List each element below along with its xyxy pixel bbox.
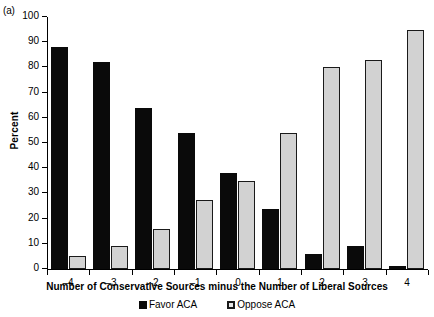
y-axis-tick: 100 [42,16,47,17]
bar-favor-aca [135,108,152,269]
x-axis-tick [343,270,344,275]
x-axis-tick [428,270,429,275]
legend-item-oppose-aca: Oppose ACA [227,300,295,310]
x-axis-tick [47,270,48,275]
filled-square-icon [139,301,147,309]
x-axis-tick [386,270,387,275]
y-axis-tick: 50 [42,142,47,143]
y-axis-line [47,17,48,270]
bar-favor-aca [178,133,195,269]
open-square-icon [227,301,235,309]
y-axis-tick-label: 80 [28,60,39,71]
y-axis-tick: 60 [42,117,47,118]
bar-favor-aca [51,47,68,269]
y-axis-tick: 0 [42,268,47,269]
x-axis-line [47,269,428,270]
bar-oppose-aca [407,30,424,269]
bar-favor-aca [347,246,364,269]
x-axis-tick [89,270,90,275]
y-axis-tick-label: 10 [28,237,39,248]
x-axis-tick [259,270,260,275]
x-axis-tick [216,270,217,275]
figure-panel-a: (a) Percent 0102030405060708090100 –4–3–… [0,0,434,317]
legend-label: Favor ACA [149,300,197,310]
legend-label: Oppose ACA [237,300,295,310]
y-axis-tick: 30 [42,192,47,193]
bar-oppose-aca [196,200,213,269]
bar-oppose-aca [365,60,382,269]
x-axis-tick [132,270,133,275]
y-axis-tick-label: 30 [28,186,39,197]
bar-favor-aca [220,173,237,269]
x-axis-tick [301,270,302,275]
panel-label: (a) [3,6,15,16]
legend-item-favor-aca: Favor ACA [139,300,197,310]
y-axis-tick: 70 [42,92,47,93]
y-axis-tick-label: 90 [28,35,39,46]
bar-oppose-aca [153,229,170,269]
bar-oppose-aca [238,181,255,269]
y-axis-tick-label: 0 [33,262,39,273]
bar-oppose-aca [280,133,297,269]
y-axis-tick-label: 60 [28,111,39,122]
y-axis-tick-label: 70 [28,86,39,97]
bar-oppose-aca [111,246,128,269]
chart-legend: Favor ACAOppose ACA [0,300,434,310]
plot-area: 0102030405060708090100 –4–3–2–101234 [47,17,428,270]
y-axis-tick-label: 20 [28,212,39,223]
bar-oppose-aca [69,256,86,269]
bar-favor-aca [389,266,406,269]
bar-favor-aca [262,209,279,269]
y-axis-tick-label: 50 [28,136,39,147]
y-axis-tick-label: 100 [22,10,39,21]
bar-favor-aca [93,62,110,269]
y-axis-tick-label: 40 [28,161,39,172]
bar-favor-aca [305,254,322,269]
x-axis-title: Number of Conservative Sources minus the… [0,281,434,292]
y-axis-tick: 40 [42,167,47,168]
y-axis-tick: 10 [42,243,47,244]
y-axis-tick: 90 [42,41,47,42]
y-axis-title: Percent [9,96,20,166]
x-axis-tick [174,270,175,275]
y-axis-tick: 20 [42,218,47,219]
bar-oppose-aca [323,67,340,269]
y-axis-tick: 80 [42,66,47,67]
